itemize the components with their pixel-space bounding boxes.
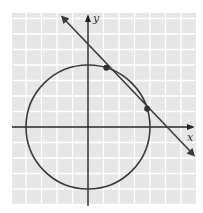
intersection-point-1	[103, 65, 109, 71]
y-axis-label: y	[92, 12, 100, 25]
graph-figure: x y	[0, 0, 203, 213]
intersection-point-2	[144, 106, 150, 112]
x-axis-label: x	[187, 131, 194, 144]
